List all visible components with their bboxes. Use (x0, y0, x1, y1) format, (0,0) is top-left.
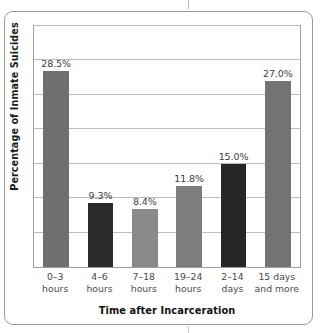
bar-value-label: 27.0% (249, 68, 307, 79)
bar-value-label: 11.8% (160, 173, 218, 184)
x-axis-title: Time after Incarceration (33, 305, 301, 316)
x-tick-label: 15 daysand more (247, 271, 307, 295)
x-tick-line-1: 4–6 (91, 271, 107, 282)
bar (221, 164, 247, 267)
gridline (34, 25, 300, 26)
chart-figure: Percentage of Inmate Suicides 28.5%9.3%8… (0, 0, 323, 333)
bar (43, 71, 69, 267)
gridline (34, 128, 300, 129)
gridline (34, 163, 300, 164)
bar (176, 186, 202, 267)
x-tick-line-1: 19–24 (174, 271, 202, 282)
x-axis-tick-labels: 0–3hours4–6hours7–18hours19–24hours2–14d… (33, 271, 301, 305)
bar-value-label: 28.5% (27, 58, 85, 69)
bar (88, 203, 114, 267)
bar-value-label: 15.0% (204, 151, 262, 162)
bar-value-label: 8.4% (116, 196, 174, 207)
x-tick-line-2: and more (247, 283, 307, 295)
x-tick-line-1: 7–18 (133, 271, 155, 282)
gridline (34, 94, 300, 95)
x-tick-line-1: 2–14 (221, 271, 243, 282)
page-gutter-rule-top (188, 0, 189, 9)
x-tick-line-1: 0–3 (47, 271, 63, 282)
bar (132, 209, 158, 267)
y-axis-title: Percentage of Inmate Suicides (9, 7, 20, 207)
gridline (34, 232, 300, 233)
plot-area: 28.5%9.3%8.4%11.8%15.0%27.0% (33, 25, 301, 268)
bar (265, 81, 291, 267)
x-tick-line-1: 15 days (258, 271, 295, 282)
page-gutter-rule-bottom (188, 326, 189, 333)
